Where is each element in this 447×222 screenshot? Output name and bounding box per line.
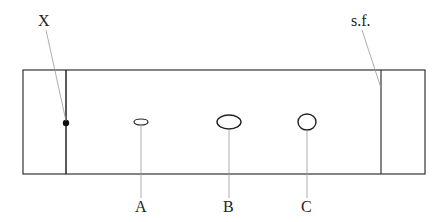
origin-leader-line [46, 30, 66, 121]
origin-label: X [38, 13, 50, 29]
spot-a-label: A [135, 199, 147, 215]
spot-c [298, 114, 316, 130]
spot-b-label: B [223, 199, 234, 215]
spot-a [134, 119, 148, 125]
plate-outline [23, 70, 425, 174]
solvent-front-label: s.f. [351, 13, 371, 29]
spot-c-label: C [301, 199, 312, 215]
chromatography-diagram [0, 0, 447, 222]
spot-b [217, 115, 241, 129]
solvent-front-leader-line [362, 30, 381, 88]
